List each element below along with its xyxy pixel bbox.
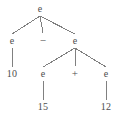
tree-edge-layer	[0, 0, 117, 117]
tree-edge-n0-n2	[40, 16, 43, 33]
tree-node-n6: +	[72, 68, 78, 79]
tree-node-n1: e	[10, 36, 15, 46]
tree-node-n2: −	[40, 35, 46, 46]
tree-node-n0: e	[38, 4, 43, 14]
tree-node-n9: 12	[101, 102, 111, 112]
tree-edge-n0-n1	[12, 16, 40, 34]
tree-node-n7: e	[104, 69, 109, 79]
tree-node-n5: e	[41, 69, 46, 79]
tree-edge-n3-n5	[43, 48, 75, 67]
tree-edge-n3-n7	[75, 48, 106, 67]
tree-node-n8: 15	[38, 102, 48, 112]
tree-node-n4: 10	[7, 69, 17, 79]
tree-edge-n0-n3	[40, 16, 75, 34]
parse-tree-figure: ee−e10e+e1512	[0, 0, 117, 117]
tree-node-n3: e	[73, 36, 78, 46]
